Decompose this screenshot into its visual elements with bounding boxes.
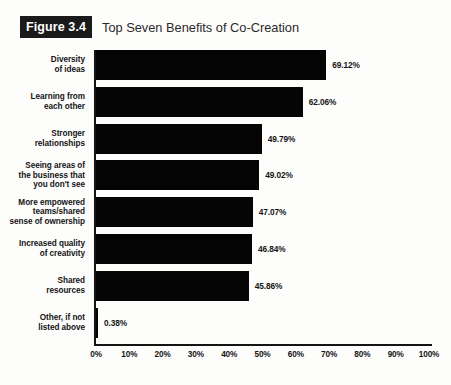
x-axis-tick-labels: 0%10%20%30%40%50%60%70%80%90%100% <box>0 350 451 366</box>
bar <box>96 271 249 301</box>
bar-value-label: 49.79% <box>268 134 296 144</box>
bar-category-label-line: you don't see <box>3 180 85 190</box>
bar-category-label-line: Increased quality <box>3 239 85 249</box>
bar <box>96 234 252 264</box>
bar-value-label: 45.86% <box>255 281 283 291</box>
bar-row: Strongerrelationships49.79% <box>0 124 451 161</box>
bar-category-label-line: of ideas <box>3 65 85 75</box>
bar-category-label: More empoweredteams/sharedsense of owner… <box>3 198 85 227</box>
bar-category-label: Sharedresources <box>3 276 85 295</box>
figure-header: Figure 3.4 Top Seven Benefits of Co-Crea… <box>20 16 430 39</box>
bar-row: More empoweredteams/sharedsense of owner… <box>0 197 451 234</box>
bar-category-label-line: Shared <box>3 276 85 286</box>
bar-category-label-line: Other, if not <box>3 313 85 323</box>
bar-category-label: Diversityof ideas <box>3 55 85 74</box>
x-axis-tick-label: 100% <box>419 350 440 359</box>
bar-row: Seeing areas ofthe business thatyou don'… <box>0 160 451 197</box>
bar-category-label-line: More empowered <box>3 198 85 208</box>
bar-row: Sharedresources45.86% <box>0 271 451 308</box>
bar <box>96 160 259 190</box>
bar-category-label: Increased qualityof creativity <box>3 239 85 258</box>
bar-row: Other, if notlisted above0.38% <box>0 308 451 345</box>
bar-category-label-line: sense of ownership <box>3 217 85 227</box>
bar-value-label: 69.12% <box>332 60 360 70</box>
x-axis-tick-label: 10% <box>121 350 137 359</box>
x-axis-tick-label: 50% <box>254 350 270 359</box>
bar-category-label-line: relationships <box>3 139 85 149</box>
x-axis-tick-label: 80% <box>354 350 370 359</box>
bar-category-label: Other, if notlisted above <box>3 313 85 332</box>
bar-category-label-line: teams/shared <box>3 207 85 217</box>
figure-container: Figure 3.4 Top Seven Benefits of Co-Crea… <box>0 0 451 385</box>
bar <box>96 50 326 80</box>
bar-category-label: Strongerrelationships <box>3 129 85 148</box>
x-axis-tick-label: 70% <box>321 350 337 359</box>
figure-number-badge: Figure 3.4 <box>20 16 92 38</box>
bar-category-label: Seeing areas ofthe business thatyou don'… <box>3 161 85 190</box>
bar-row: Diversityof ideas69.12% <box>0 50 451 87</box>
x-axis-tick-label: 60% <box>288 350 304 359</box>
bar-category-label: Learning fromeach other <box>3 92 85 111</box>
bar-value-label: 46.84% <box>258 244 286 254</box>
bar <box>96 308 98 338</box>
bar-category-label-line: Seeing areas of <box>3 161 85 171</box>
bar-row: Learning fromeach other62.06% <box>0 87 451 124</box>
bar-row: Increased qualityof creativity46.84% <box>0 234 451 271</box>
x-axis-tick-label: 40% <box>221 350 237 359</box>
bar-category-label-line: Diversity <box>3 55 85 65</box>
bar <box>96 87 303 117</box>
bar-category-label-line: Stronger <box>3 129 85 139</box>
x-axis-tick-label: 90% <box>388 350 404 359</box>
bar-category-label-line: the business that <box>3 171 85 181</box>
bar-value-label: 62.06% <box>309 97 337 107</box>
bar <box>96 124 262 154</box>
bar-category-label-line: of creativity <box>3 249 85 259</box>
bar-value-label: 47.07% <box>259 207 287 217</box>
x-axis-tick-label: 20% <box>155 350 171 359</box>
x-axis-tick-label: 30% <box>188 350 204 359</box>
figure-title: Top Seven Benefits of Co-Creation <box>102 18 299 37</box>
bar-category-label-line: listed above <box>3 323 85 333</box>
bar-value-label: 49.02% <box>265 170 293 180</box>
bar-category-label-line: resources <box>3 286 85 296</box>
bar-category-label-line: Learning from <box>3 92 85 102</box>
x-axis-tick-label: 0% <box>90 350 102 359</box>
bar-value-label: 0.38% <box>104 318 127 328</box>
chart-plot-area: Diversityof ideas69.12%Learning fromeach… <box>0 44 451 385</box>
bar-category-label-line: each other <box>3 102 85 112</box>
bar <box>96 197 253 227</box>
